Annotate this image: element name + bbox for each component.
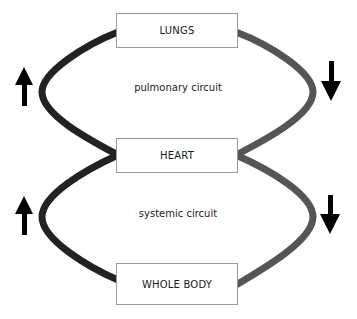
arrow-down-icon xyxy=(320,195,340,234)
pulmonary-circuit-label: pulmonary circuit xyxy=(128,82,228,93)
arrow-up-icon xyxy=(15,196,33,235)
arrow-down-icon xyxy=(321,61,341,101)
lungs-label: LUNGS xyxy=(160,25,195,36)
pulmonary-left-vessel xyxy=(42,32,118,155)
heart-label: HEART xyxy=(160,150,194,161)
whole-body-label: WHOLE BODY xyxy=(142,279,212,290)
systemic-circuit-label: systemic circuit xyxy=(128,208,228,219)
whole-body-node: WHOLE BODY xyxy=(116,263,238,305)
systemic-left-vessel xyxy=(42,155,118,280)
pulmonary-right-vessel xyxy=(236,32,313,155)
lungs-node: LUNGS xyxy=(116,13,238,48)
arrow-up-icon xyxy=(15,67,33,106)
systemic-right-vessel xyxy=(236,155,313,285)
heart-node: HEART xyxy=(116,138,238,173)
